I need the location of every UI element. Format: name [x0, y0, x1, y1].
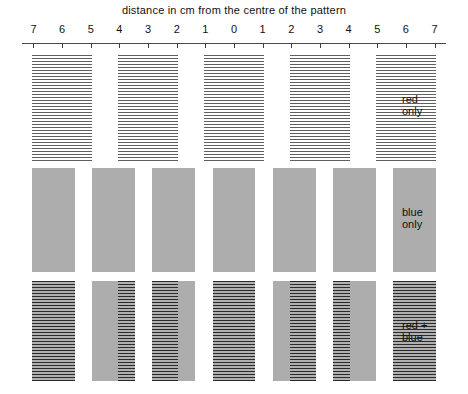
blue-fringe-band: [32, 168, 75, 272]
axis-tick-mark: [263, 43, 264, 48]
axis-tick-label: 3: [145, 23, 151, 35]
red-plus-blue-pattern-row: [0, 281, 468, 381]
axis-tick-mark: [435, 43, 436, 48]
axis-tick-label: 4: [346, 23, 352, 35]
axis-tick-label: 5: [88, 23, 94, 35]
blue-fringe-band: [273, 168, 316, 272]
axis-tick-label: 1: [260, 23, 266, 35]
overlap-fringe-band: [118, 281, 135, 381]
axis-tick-label: 3: [317, 23, 323, 35]
axis-tick-label: 7: [431, 23, 437, 35]
red-fringe-band: [290, 55, 350, 162]
blue-fringe-band: [152, 168, 195, 272]
overlap-stripe-overlay: [118, 281, 135, 381]
row-label-blue-only: blue only: [402, 206, 462, 230]
overlap-stripe-overlay: [32, 281, 75, 381]
axis-tick-label: 2: [174, 23, 180, 35]
axis-tick-mark: [377, 43, 378, 48]
red-only-fringe-band-combined: [376, 281, 393, 381]
row-label-red-line1: red: [402, 93, 462, 105]
axis-tick-label: 2: [288, 23, 294, 35]
axis-tick-mark: [349, 43, 350, 48]
row-label-both-line2: blue: [402, 331, 462, 343]
red-only-fringe-band-combined: [204, 281, 213, 381]
axis-tick-mark: [148, 43, 149, 48]
blue-only-fringe-band-combined: [350, 281, 376, 381]
row-label-red-only: red only: [402, 93, 462, 117]
axis-tick-mark: [119, 43, 120, 48]
axis-tick-mark: [406, 43, 407, 48]
red-fringe-band: [118, 55, 178, 162]
axis-tick-mark: [291, 43, 292, 48]
overlap-stripe-overlay: [213, 281, 256, 381]
red-only-fringe-band-combined: [135, 281, 152, 381]
axis-tick-label: 6: [59, 23, 65, 35]
axis-tick-label: 7: [30, 23, 36, 35]
overlap-fringe-band: [333, 281, 350, 381]
row-label-blue-line2: only: [402, 218, 462, 230]
blue-fringe-band: [213, 168, 256, 272]
overlap-stripe-overlay: [290, 281, 316, 381]
axis-tick-label: 1: [202, 23, 208, 35]
axis-tick-mark: [91, 43, 92, 48]
axis-tick-mark: [33, 43, 34, 48]
red-only-fringe-band-combined: [255, 281, 264, 381]
overlap-fringe-band: [32, 281, 75, 381]
axis-tick-mark: [177, 43, 178, 48]
axis-tick-label: 4: [116, 23, 122, 35]
blue-only-fringe-band-combined: [273, 281, 290, 381]
axis-tick-mark: [234, 43, 235, 48]
axis-tick-mark: [320, 43, 321, 48]
red-only-fringe-band-combined: [75, 281, 92, 381]
blue-fringe-band: [92, 168, 135, 272]
red-only-pattern-row: [0, 55, 468, 162]
axis-title: distance in cm from the centre of the pa…: [0, 4, 468, 16]
blue-only-pattern-row: [0, 168, 468, 272]
red-fringe-band: [204, 55, 264, 162]
overlap-stripe-overlay: [333, 281, 350, 381]
axis-tick-mark: [62, 43, 63, 48]
blue-only-fringe-band-combined: [178, 281, 195, 381]
axis-tick-label: 5: [374, 23, 380, 35]
overlap-fringe-band: [213, 281, 256, 381]
overlap-fringe-band: [152, 281, 178, 381]
red-only-fringe-band-combined: [316, 281, 333, 381]
axis-tick-label: 0: [231, 23, 237, 35]
blue-fringe-band: [333, 168, 376, 272]
axis-tick-mark: [205, 43, 206, 48]
axis-tick-label: 6: [403, 23, 409, 35]
row-label-red-line2: only: [402, 105, 462, 117]
row-label-blue-line1: blue: [402, 206, 462, 218]
distance-axis: 765432101234567: [0, 22, 468, 48]
overlap-stripe-overlay: [152, 281, 178, 381]
red-fringe-band: [32, 55, 92, 162]
row-label-red-plus-blue: red + blue: [402, 319, 462, 343]
row-label-both-line1: red +: [402, 319, 462, 331]
fringe-pattern-figure: distance in cm from the centre of the pa…: [0, 0, 468, 394]
overlap-fringe-band: [290, 281, 316, 381]
blue-only-fringe-band-combined: [92, 281, 118, 381]
